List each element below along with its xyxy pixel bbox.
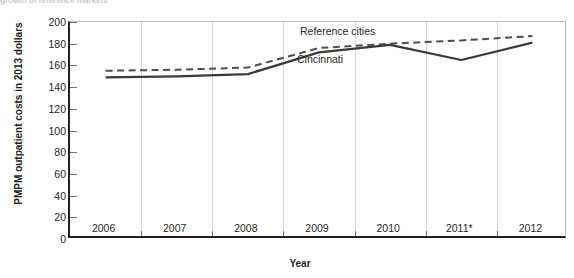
x-axis-tick-label: 2009 [305, 222, 328, 234]
y-axis-tick-label: 120 [48, 103, 66, 115]
y-axis-tick-label: 140 [48, 81, 66, 93]
chart-figure: growth of reference markets PMPM outpati… [0, 0, 574, 278]
figure-title-cropped: growth of reference markets [0, 0, 300, 5]
x-axis-tick-label: 2012 [519, 222, 542, 234]
y-axis-tick-label: 180 [48, 38, 66, 50]
y-axis-label: PMPM outpatient costs in 2013 dollars [13, 4, 24, 224]
y-axis-tick-label: 20 [54, 211, 66, 223]
x-axis-tick-label: 2007 [163, 222, 186, 234]
x-axis-tick-label: 2006 [92, 222, 115, 234]
y-axis-tick-label: 40 [54, 190, 66, 202]
x-axis-tick-label: 2008 [234, 222, 257, 234]
y-axis-tick-label: 80 [54, 146, 66, 158]
y-axis-tick-label: 60 [54, 168, 66, 180]
y-axis-tick-label: 160 [48, 59, 66, 71]
y-axis-tick-label: 200 [48, 16, 66, 28]
x-axis-tick-label: 2010 [376, 222, 399, 234]
series-label-reference-cities: Reference cities [300, 25, 375, 37]
y-axis-tick-label: 100 [48, 125, 66, 137]
y-axis-tick-label: 0 [60, 233, 66, 245]
x-axis-tick-label: 2011* [446, 222, 473, 234]
x-axis-label: Year [60, 258, 540, 269]
series-label-cincinnati: Cincinnati [297, 53, 343, 65]
